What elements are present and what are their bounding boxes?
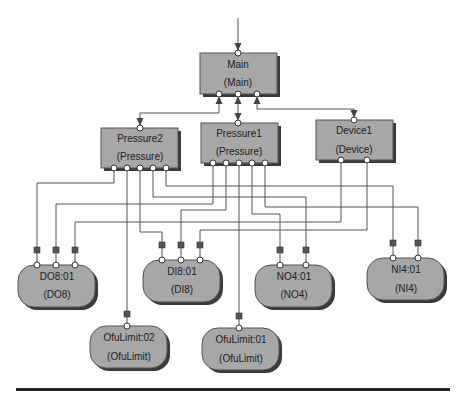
wire-pressure1-di8[interactable] <box>181 163 226 260</box>
output-port-icon[interactable] <box>249 160 255 166</box>
output-port-icon[interactable] <box>262 160 268 166</box>
device-name: NO4:01 <box>277 271 312 282</box>
block-main[interactable]: Main (Main) <box>200 50 280 97</box>
device-name: OfuLimit:01 <box>215 334 267 345</box>
connector-marker-icon <box>197 242 203 248</box>
device-type: (NO4) <box>280 289 307 300</box>
device-name: DO8:01 <box>40 271 75 282</box>
input-port-icon[interactable] <box>351 117 357 123</box>
connector-marker-icon <box>277 247 283 253</box>
connector-marker-icon <box>178 242 184 248</box>
output-port-icon[interactable] <box>223 160 229 166</box>
output-port-icon[interactable] <box>210 160 216 166</box>
input-port-icon[interactable] <box>277 262 283 268</box>
block-pressure2[interactable]: Pressure2 (Pressure) <box>101 125 181 171</box>
block-device1[interactable]: Device1 (Device) <box>316 117 396 163</box>
block-type: (Pressure) <box>117 151 164 162</box>
wire-pressure2-di8[interactable] <box>140 168 162 260</box>
output-port-icon[interactable] <box>236 160 242 166</box>
input-port-icon[interactable] <box>303 262 309 268</box>
wire-pressure1-no4[interactable] <box>252 163 280 265</box>
connector-marker-icon <box>53 247 59 253</box>
wire-device1-do8[interactable] <box>75 160 341 265</box>
connector-marker-icon <box>415 240 421 246</box>
device-no4[interactable]: NO4:01 (NO4) <box>255 262 335 310</box>
block-name: Pressure1 <box>216 128 262 139</box>
wire-pressure1-do8[interactable] <box>56 163 213 265</box>
output-port-icon[interactable] <box>163 165 169 171</box>
input-port-icon[interactable] <box>197 257 203 263</box>
block-name: Device1 <box>336 125 373 136</box>
output-port-icon[interactable] <box>338 157 344 163</box>
input-port-icon[interactable] <box>53 262 59 268</box>
wire-main-device1[interactable] <box>257 104 354 118</box>
output-port-icon[interactable] <box>150 165 156 171</box>
output-port-icon[interactable] <box>254 91 260 97</box>
block-name: Main <box>227 59 249 70</box>
device-ofulimit01[interactable]: OfuLimit:01 (OfuLimit) <box>202 325 282 373</box>
device-name: NI4:01 <box>391 264 421 275</box>
output-port-icon[interactable] <box>111 165 117 171</box>
block-type: (Device) <box>335 144 372 155</box>
input-port-icon[interactable] <box>124 323 130 329</box>
output-port-icon[interactable] <box>364 157 370 163</box>
input-port-icon[interactable] <box>34 262 40 268</box>
block-diagram-canvas: Main (Main) Pressure2 (Pressure) Pressur… <box>0 0 466 397</box>
output-port-icon[interactable] <box>216 91 222 97</box>
output-port-icon[interactable] <box>137 165 143 171</box>
connector-marker-icon <box>124 311 130 317</box>
block-pressure1[interactable]: Pressure1 (Pressure) <box>201 120 281 166</box>
device-type: (NI4) <box>395 283 417 294</box>
device-name: DI8:01 <box>167 266 197 277</box>
input-port-icon[interactable] <box>72 262 78 268</box>
device-type: (DI8) <box>171 284 193 295</box>
input-port-icon[interactable] <box>415 255 421 261</box>
input-port-icon[interactable] <box>390 255 396 261</box>
input-port-icon[interactable] <box>159 257 165 263</box>
connector-marker-icon <box>236 313 242 319</box>
connector-marker-icon <box>303 247 309 253</box>
device-ofulimit02[interactable]: OfuLimit:02 (OfuLimit) <box>90 323 170 371</box>
input-port-icon[interactable] <box>178 257 184 263</box>
device-ni4[interactable]: NI4:01 (NI4) <box>367 255 447 303</box>
output-port-icon[interactable] <box>235 91 241 97</box>
input-port-icon[interactable] <box>235 50 241 56</box>
device-type: (OfuLimit) <box>107 351 151 362</box>
block-type: (Main) <box>224 77 252 88</box>
input-port-icon[interactable] <box>137 125 143 131</box>
connector-marker-icon <box>390 240 396 246</box>
device-name: OfuLimit:02 <box>103 332 155 343</box>
device-type: (OfuLimit) <box>219 353 263 364</box>
input-port-icon[interactable] <box>235 120 241 126</box>
device-type: (DO8) <box>43 289 70 300</box>
block-type: (Pressure) <box>216 146 263 157</box>
connector-marker-icon <box>34 247 40 253</box>
input-port-icon[interactable] <box>236 325 242 331</box>
connector-marker-icon <box>159 242 165 248</box>
device-di8[interactable]: DI8:01 (DI8) <box>143 257 223 305</box>
divider-line <box>16 388 450 391</box>
block-name: Pressure2 <box>117 133 163 144</box>
connector-marker-icon <box>72 247 78 253</box>
output-port-icon[interactable] <box>124 165 130 171</box>
device-do8[interactable]: DO8:01 (DO8) <box>18 262 98 310</box>
